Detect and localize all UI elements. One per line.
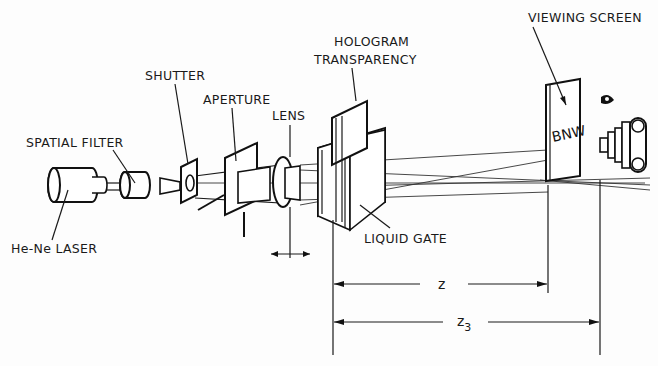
laser bbox=[48, 168, 107, 240]
spatial-filter-label: SPATIAL FILTER bbox=[26, 135, 124, 150]
viewing-screen bbox=[533, 27, 580, 181]
optical-setup-diagram: He-Ne LASER SPATIAL FILTER SHUTTER APERT… bbox=[0, 0, 658, 366]
dimension-z-label: z bbox=[438, 276, 445, 292]
aperture-label: APERTURE bbox=[203, 92, 271, 107]
lens bbox=[271, 125, 310, 258]
shutter-label: SHUTTER bbox=[145, 68, 205, 83]
camera-icon bbox=[600, 118, 646, 172]
viewing-screen-label: VIEWING SCREEN bbox=[528, 10, 642, 25]
hologram-label-line1: HOLOGRAM bbox=[334, 34, 409, 49]
liquid-gate-label: LIQUID GATE bbox=[364, 231, 447, 246]
dimension-z3-label: z3 bbox=[457, 313, 471, 334]
eye-icon bbox=[601, 95, 614, 104]
lens-label: LENS bbox=[272, 108, 305, 123]
laser-label: He-Ne LASER bbox=[11, 241, 97, 256]
hologram-label-line2: TRANSPARENCY bbox=[313, 52, 417, 67]
spatial-filter bbox=[113, 150, 150, 198]
aperture bbox=[225, 108, 270, 237]
